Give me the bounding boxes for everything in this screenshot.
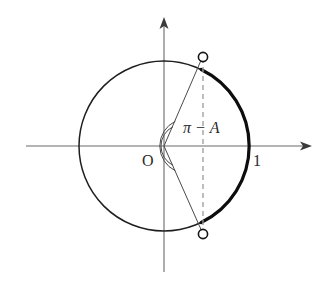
unit-circle-diagram: O 1 π − A bbox=[0, 0, 330, 282]
unit-tick-label: 1 bbox=[253, 152, 261, 169]
figure-container: O 1 π − A bbox=[0, 0, 330, 282]
angle-label: π − A bbox=[183, 119, 220, 136]
lower-point-marker bbox=[198, 229, 207, 238]
radius-to-lower-point bbox=[164, 146, 203, 234]
upper-point-marker bbox=[198, 52, 207, 61]
origin-label: O bbox=[142, 152, 154, 169]
axes-group bbox=[26, 17, 312, 272]
